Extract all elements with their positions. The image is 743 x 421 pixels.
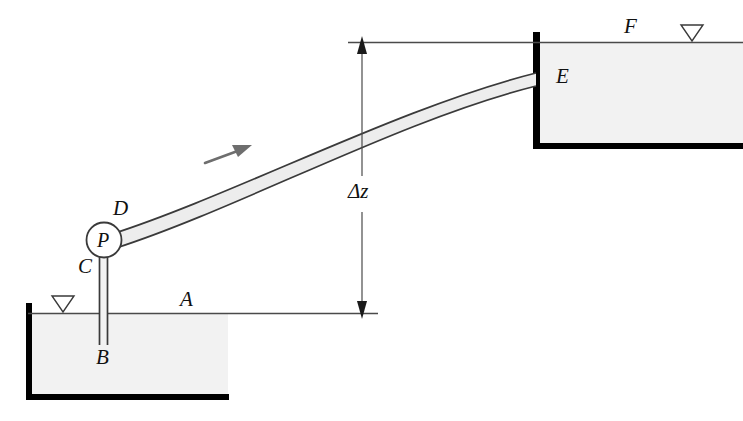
label-point-f: F xyxy=(624,16,637,37)
lower-reservoir-left-wall xyxy=(26,303,32,400)
lower-reservoir-fluid xyxy=(31,314,228,395)
elevation-dimension xyxy=(357,36,367,319)
upper-reservoir-bottom-wall xyxy=(533,143,743,149)
free-surface-triangle-upper xyxy=(681,25,703,41)
lower-reservoir-bottom-wall xyxy=(26,394,229,400)
dimension-arrowhead-top xyxy=(357,36,367,54)
pump-reservoir-diagram: A B C D E F P Δz xyxy=(0,0,743,421)
flow-direction-arrow xyxy=(205,145,252,163)
label-point-e: E xyxy=(556,66,569,87)
label-point-d: D xyxy=(113,198,128,219)
label-point-b: B xyxy=(96,347,109,368)
discharge-pipe-fill xyxy=(112,73,536,248)
label-point-a: A xyxy=(180,289,193,310)
upper-reservoir-left-wall xyxy=(533,32,540,149)
diagram-canvas xyxy=(0,0,743,421)
free-surface-triangle-lower xyxy=(52,296,74,312)
label-pump: P xyxy=(97,230,109,250)
upper-reservoir-fluid xyxy=(540,43,743,148)
dimension-arrowhead-bottom xyxy=(357,301,367,319)
label-point-c: C xyxy=(78,256,92,277)
label-elevation-change: Δz xyxy=(348,181,369,202)
